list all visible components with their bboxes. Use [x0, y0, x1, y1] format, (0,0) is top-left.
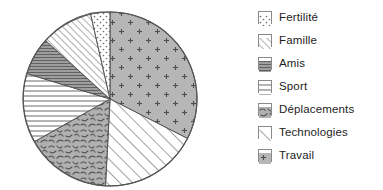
legend-swatch-sport-icon	[258, 80, 272, 93]
legend-item-travail[interactable]: Travail	[258, 144, 383, 167]
legend-label-travail: Travail	[279, 149, 314, 162]
legend-label-famille: Famille	[279, 34, 317, 47]
legend-swatch-fertilite-icon	[258, 11, 272, 24]
legend-item-deplacements[interactable]: Déplacements	[258, 98, 383, 121]
legend-item-amis[interactable]: Amis	[258, 52, 383, 75]
legend-swatch-technologies-icon	[258, 126, 272, 139]
legend-item-sport[interactable]: Sport	[258, 75, 383, 98]
legend-item-fertilite[interactable]: Fertilité	[258, 6, 383, 29]
legend-swatch-deplacements-icon	[258, 103, 272, 116]
pie-svg	[0, 0, 225, 190]
legend-swatch-famille-icon	[258, 34, 272, 47]
legend-item-technologies[interactable]: Technologies	[258, 121, 383, 144]
legend-swatch-amis-icon	[258, 57, 272, 70]
legend-label-sport: Sport	[279, 80, 307, 93]
pie-plot-area	[0, 0, 225, 190]
legend-label-technologies: Technologies	[279, 126, 348, 139]
legend-item-famille[interactable]: Famille	[258, 29, 383, 52]
legend: Fertilité Famille Amis Sport Déplacement	[258, 6, 383, 186]
legend-label-amis: Amis	[279, 57, 305, 70]
legend-label-deplacements: Déplacements	[279, 103, 354, 116]
legend-label-fertilite: Fertilité	[279, 11, 318, 24]
legend-swatch-travail-icon	[258, 149, 272, 162]
pie-chart-figure: Fertilité Famille Amis Sport Déplacement	[0, 0, 383, 190]
